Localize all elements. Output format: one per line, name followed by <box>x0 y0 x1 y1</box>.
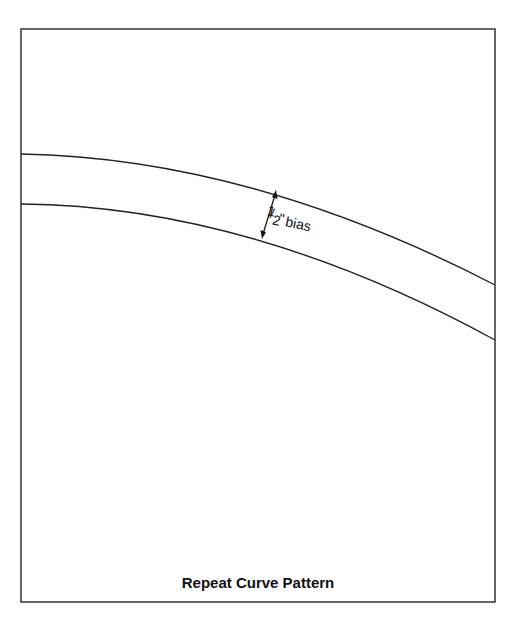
bias-label: 1 / 2 " bias <box>264 202 314 235</box>
lower-curve <box>21 204 495 340</box>
page-frame <box>21 29 495 602</box>
upper-curve <box>21 154 495 285</box>
bias-text: bias <box>284 213 312 234</box>
diagram-title: Repeat Curve Pattern <box>21 574 495 591</box>
pattern-diagram: 1 / 2 " bias <box>0 0 525 632</box>
